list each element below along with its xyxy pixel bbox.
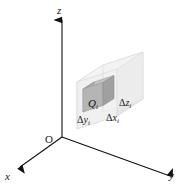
delta-y-subscript: i [88,119,90,127]
coordinate-system-graphic [0,0,182,190]
z-axis-label: z [57,5,61,16]
q-symbol: Q [88,97,96,109]
q-subscript: i [96,103,98,111]
delta-x-label: Δxi [106,113,119,123]
origin-label: O [45,134,53,145]
delta-x-subscript: i [117,117,119,125]
figure-canvas: z x y O Qi Δzi Δyi Δxi [0,0,182,190]
y-axis-line [62,137,170,176]
x-axis-label: x [5,171,10,182]
delta-y-label: Δyi [77,115,90,125]
delta-z-label: Δzi [119,98,131,108]
x-axis-line [20,137,62,167]
y-axis-label: y [169,170,174,181]
inner-cell-label: Qi [88,98,98,109]
